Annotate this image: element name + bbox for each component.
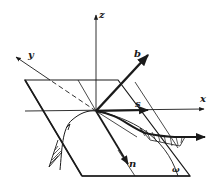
hatched-region-left: [49, 140, 62, 167]
frenet-frame-diagram: z y x b s n ω: [0, 0, 218, 187]
y-axis-label: y: [27, 49, 35, 60]
plane-inner-line-right: [135, 82, 178, 148]
tangent-vector: [96, 110, 148, 111]
z-axis-label: z: [98, 9, 105, 20]
x-axis-label: x: [199, 93, 207, 104]
surface-label: ω: [172, 164, 180, 174]
tangent-label: s: [135, 98, 141, 109]
plane-inner-line-left: [78, 80, 96, 111]
plane-curve-arch: [60, 111, 96, 170]
normal-label: n: [129, 158, 136, 169]
auxiliary-line: [96, 111, 137, 137]
y-axis-dashed: [50, 80, 96, 111]
binormal-label: b: [134, 48, 141, 59]
y-axis: [16, 57, 50, 80]
